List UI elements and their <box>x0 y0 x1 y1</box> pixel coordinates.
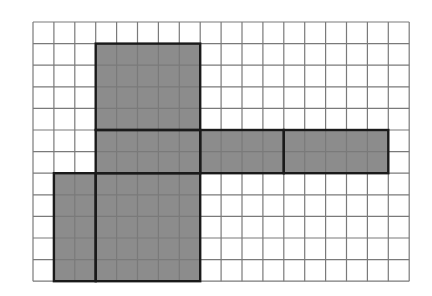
grid-paper-net-diagram <box>0 0 432 296</box>
bottom-face <box>96 173 201 281</box>
